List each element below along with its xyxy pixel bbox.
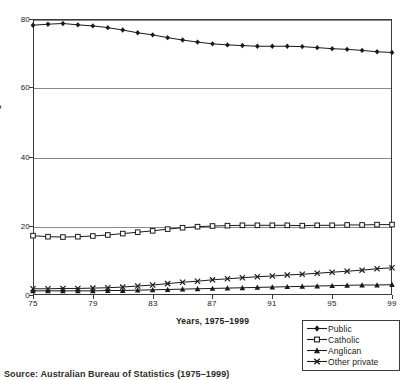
series-anglican <box>30 282 395 293</box>
x-tick-label-95: 95 <box>322 299 342 308</box>
legend-item-anglican[interactable]: Anglican <box>306 345 396 356</box>
legend-item-public[interactable]: Public <box>306 323 396 334</box>
x-tick-label-91: 91 <box>262 299 282 308</box>
chart-figure: Percentage 80 60 40 20 0 75 79 83 87 91 … <box>0 0 409 380</box>
x-tick-label-83: 83 <box>143 299 163 308</box>
x-tick-label-79: 79 <box>83 299 103 308</box>
y-tick-label-80: 80 <box>6 15 30 24</box>
figure-caption: Source: Australian Bureau of Statistics … <box>4 369 229 379</box>
legend-item-catholic[interactable]: Catholic <box>306 334 396 345</box>
series-public <box>31 21 395 55</box>
diamond-marker-icon <box>306 323 328 334</box>
cross-marker-icon <box>306 356 328 367</box>
x-tick-label-87: 87 <box>202 299 222 308</box>
y-axis-title: Percentage <box>0 99 1 147</box>
legend-label-catholic: Catholic <box>328 335 360 345</box>
triangle-marker-icon <box>306 345 328 356</box>
legend-label-other-private: Other private <box>328 357 378 367</box>
legend-item-other-private[interactable]: Other private <box>306 356 396 367</box>
chart-legend: Public Catholic Anglican Other private <box>302 320 400 371</box>
legend-label-public: Public <box>328 324 352 334</box>
y-tick-label-20: 20 <box>6 222 30 231</box>
square-marker-icon <box>306 334 328 345</box>
data-series-layer <box>33 19 392 295</box>
y-tick-label-60: 60 <box>6 83 30 92</box>
x-tick-label-75: 75 <box>23 299 43 308</box>
legend-label-anglican: Anglican <box>328 346 361 356</box>
y-tick-label-40: 40 <box>6 153 30 162</box>
series-catholic <box>31 222 395 239</box>
x-tick-label-99: 99 <box>382 299 402 308</box>
